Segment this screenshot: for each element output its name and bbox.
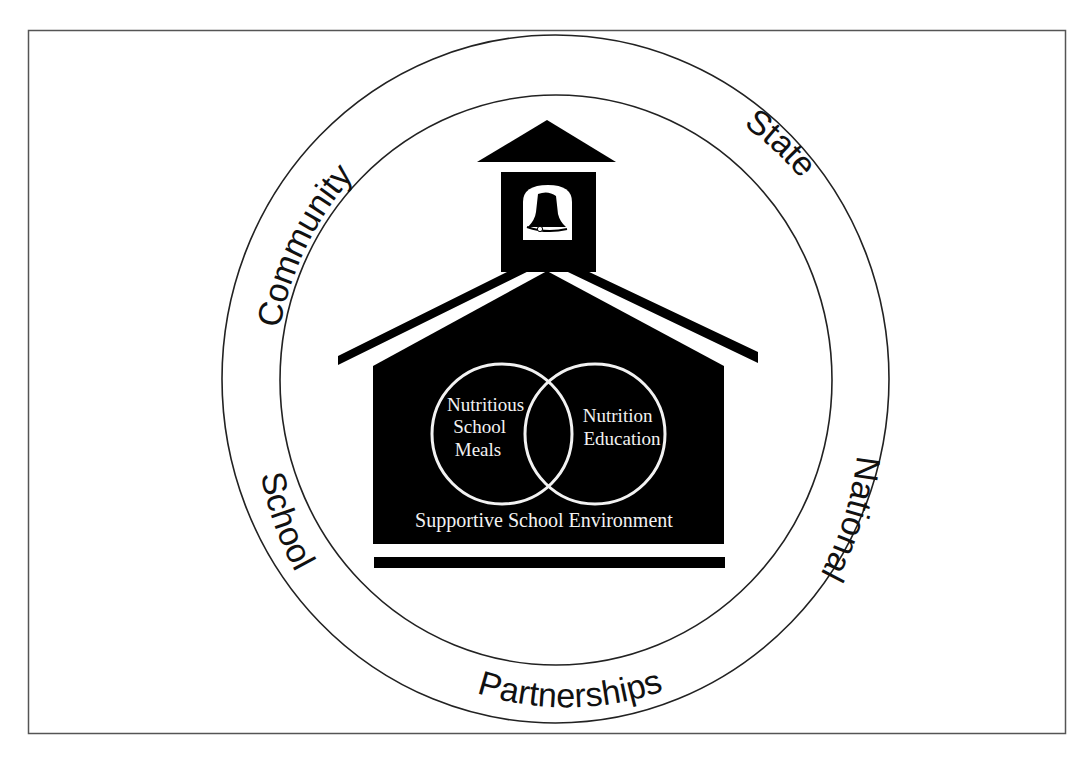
ring-label-partnerships: Partnerships [474, 661, 666, 714]
ring-label-school-text: School [254, 468, 323, 575]
house-base [374, 557, 725, 568]
venn-label-meals-line-3: Meals [455, 439, 501, 460]
tower-roof [477, 120, 616, 162]
ring-label-community: Community [249, 156, 359, 330]
partnerships-diagram: Community State National Partnerships Sc… [0, 0, 1089, 762]
ring-label-community-text: Community [249, 156, 359, 330]
environment-label: Supportive School Environment [415, 509, 673, 532]
venn-label-meals-line-1: Nutritious [447, 394, 524, 415]
venn-label-education-line-2: Education [583, 428, 661, 449]
venn-label-meals-line-2: School [453, 416, 506, 437]
ring-label-national-text: National [814, 454, 888, 588]
ring-label-state: State [739, 101, 825, 184]
schoolhouse-icon: Nutritious School Meals Nutrition Educat… [338, 120, 758, 568]
ring-label-school: School [254, 468, 323, 575]
venn-label-education-line-1: Nutrition [583, 405, 653, 426]
ring-label-state-text: State [739, 101, 825, 184]
ring-label-national: National [814, 454, 888, 588]
ring-label-partnerships-text: Partnerships [474, 661, 666, 714]
